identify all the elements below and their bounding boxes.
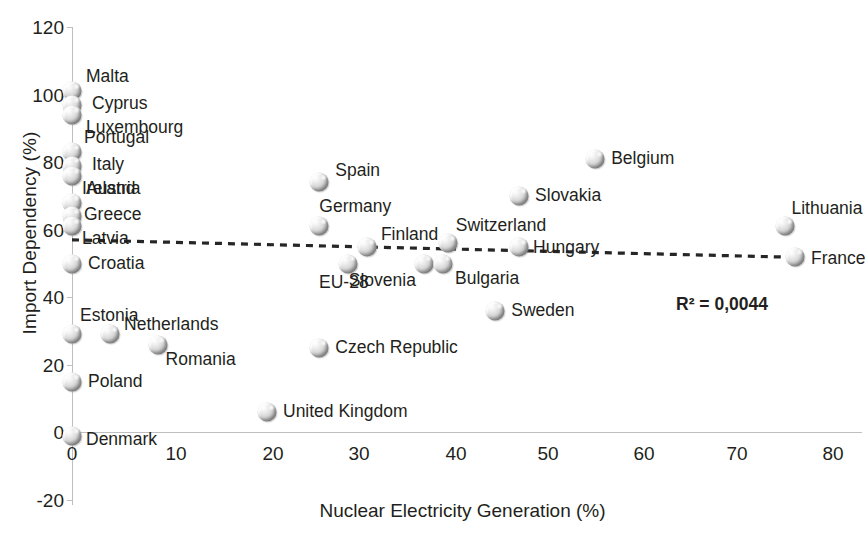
x-tick-70: 70 [726,444,747,463]
x-tick-0: 0 [67,444,78,463]
x-axis-title-text: Nuclear Electricity Generation (%) [319,500,605,522]
x-tick-80: 80 [822,444,843,463]
x-tick-10: 10 [165,444,186,463]
x-tick-60: 60 [633,444,654,463]
r-squared-annotation: R² = 0,0044 [676,294,768,315]
x-tick-20: 20 [262,444,283,463]
x-tick-50: 50 [537,444,558,463]
x-axis-title: Nuclear Electricity Generation (%) [0,500,867,522]
scatter-chart: Import Dependency (%) 120 100 80 60 40 2… [0,0,867,546]
x-tick-30: 30 [348,444,369,463]
x-tick-40: 40 [445,444,466,463]
x-axis-ticks: 0 10 20 30 40 50 60 70 80 [0,0,867,546]
